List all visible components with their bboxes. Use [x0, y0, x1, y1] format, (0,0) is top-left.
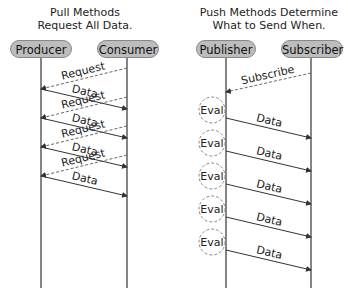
push-data-arrow-label: Data: [255, 210, 284, 229]
data-arrow-label: Data: [71, 169, 100, 188]
consumer-actor: Consumer: [97, 40, 159, 58]
eval-label: Eval: [200, 203, 223, 216]
eval-label: Eval: [200, 236, 223, 249]
request-arrow-label: Request: [60, 59, 107, 82]
push-data-arrow-label: Data: [255, 177, 284, 196]
subscriber-actor: Subscriber: [281, 40, 343, 58]
eval-label: Eval: [200, 104, 223, 117]
push-data-arrow-label: Data: [255, 144, 284, 163]
eval-label: Eval: [200, 170, 223, 183]
push-data-arrow-label: Data: [255, 243, 284, 262]
subscribe-arrow-label: Subscribe: [240, 63, 296, 88]
publisher-actor: Publisher: [196, 40, 256, 58]
producer-actor: Producer: [10, 40, 72, 58]
push-data-arrow-label: Data: [255, 111, 284, 130]
eval-label: Eval: [200, 137, 223, 150]
